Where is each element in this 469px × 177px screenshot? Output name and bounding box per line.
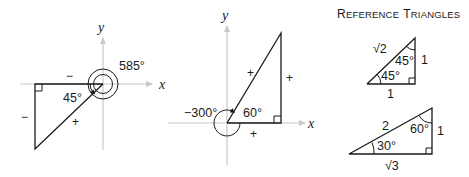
bottom-angle-label: 30°: [377, 139, 396, 153]
reference-triangle-45-45-90: √2 45° 45° 1 1: [367, 38, 428, 101]
opposite-sign: −: [21, 110, 28, 124]
adjacent-sign: −: [66, 69, 73, 83]
x-axis-label: x: [307, 116, 315, 131]
right-angle-mark: [409, 78, 415, 84]
diagram-585-degrees: x y 585° 45° − − +: [20, 20, 166, 150]
right-angle-mark: [274, 116, 281, 123]
right-angle-mark: [426, 148, 432, 154]
diagram-neg-300-degrees: x y −300° 60° + + +: [168, 8, 315, 165]
hypotenuse-sign: +: [247, 66, 254, 80]
top-angle-arc: [407, 47, 416, 51]
reference-triangle-30-60-90: 2 60° 30° 1 √3: [349, 108, 444, 173]
hypotenuse-label: 2: [382, 119, 389, 133]
horizontal-side-label: √3: [385, 159, 399, 173]
reference-triangles-title: REFERENCETRIANGLES: [337, 7, 460, 21]
reference-angle-label: 45°: [63, 91, 82, 105]
hypotenuse-sign: +: [72, 115, 79, 129]
vertical-side-label: 1: [437, 124, 444, 138]
horizontal-side-label: 1: [387, 87, 394, 101]
x-axis-label: x: [158, 77, 166, 92]
bottom-angle-arc: [372, 143, 374, 155]
angle-neg-300-label: −300°: [184, 106, 217, 120]
angle-585-label: 585°: [119, 59, 145, 73]
reference-angle-label: 60°: [243, 106, 262, 120]
bottom-angle-label: 45°: [381, 69, 400, 83]
right-angle-mark: [35, 84, 42, 91]
opposite-sign: +: [286, 71, 293, 85]
top-angle-label: 60°: [410, 122, 429, 136]
adjacent-sign: +: [250, 127, 257, 141]
hypotenuse-label: √2: [373, 42, 387, 56]
y-axis-label: y: [96, 20, 105, 35]
vertical-side-label: 1: [421, 53, 428, 67]
trig-diagram-canvas: x y 585° 45° − − + x y −300° 60° + + + R…: [0, 0, 469, 177]
top-angle-label: 45°: [395, 54, 414, 68]
y-axis-label: y: [220, 8, 229, 23]
